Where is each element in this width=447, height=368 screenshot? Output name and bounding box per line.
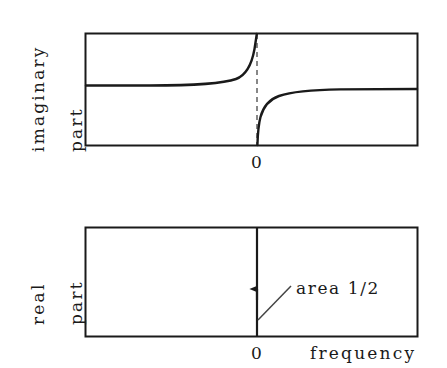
figure-root: imaginary part 0 real part area 1/2 0 fr — [0, 0, 447, 368]
bottom-panel-plot — [0, 0, 447, 368]
bottom-panel-annotation-leader — [258, 286, 291, 320]
bottom-panel-xtick-zero: 0 — [251, 343, 262, 363]
bottom-panel-xaxis-title: frequency — [310, 343, 416, 363]
bottom-panel-annotation-label: area 1/2 — [296, 278, 380, 298]
